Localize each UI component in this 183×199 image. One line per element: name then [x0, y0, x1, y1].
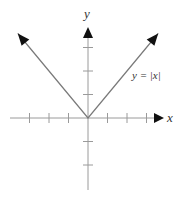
y-axis-label: y	[82, 6, 90, 21]
right-arrowhead-icon	[147, 33, 159, 45]
axes	[10, 38, 156, 190]
y-axis-arrowhead-icon	[83, 27, 93, 38]
function-label: y = |x|	[131, 69, 161, 81]
plot-canvas: x y y = |x|	[0, 0, 183, 199]
x-axis-label: x	[166, 110, 173, 125]
graph-figure: x y y = |x|	[0, 0, 183, 199]
x-axis-arrowhead-icon	[154, 113, 164, 123]
left-arrowhead-icon	[18, 33, 30, 45]
